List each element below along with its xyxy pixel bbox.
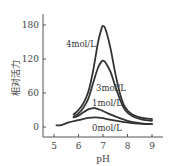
x-axis-label: pH bbox=[96, 154, 110, 164]
curve-label: 4mol/L bbox=[66, 39, 96, 49]
curve-label: 1mol/L bbox=[92, 98, 122, 108]
y-ticks: 060120180 bbox=[22, 20, 46, 132]
y-axis-label: 相对活力 bbox=[10, 60, 21, 96]
y-tick-label: 0 bbox=[33, 122, 39, 132]
x-tick-label: 6 bbox=[76, 141, 82, 151]
y-tick-label: 60 bbox=[28, 88, 40, 98]
x-tick-label: 9 bbox=[149, 141, 155, 151]
x-tick-label: 5 bbox=[51, 141, 57, 151]
x-tick-label: 7 bbox=[100, 141, 106, 151]
y-tick-label: 180 bbox=[22, 20, 39, 30]
enzyme-activity-chart: 060120180 56789 pH 相对活力 4mol/L3mol/L1mol… bbox=[0, 0, 175, 166]
y-tick-label: 120 bbox=[22, 54, 39, 64]
curve-label: 0mol/L bbox=[92, 123, 122, 133]
x-tick-label: 8 bbox=[125, 141, 131, 151]
curve-label: 3mol/L bbox=[96, 83, 126, 93]
curve-1mol-per-l bbox=[74, 108, 152, 124]
